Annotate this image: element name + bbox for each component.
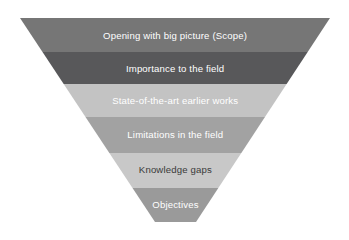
funnel-band-label: Opening with big picture (Scope) — [103, 30, 247, 41]
funnel-band-label: Objectives — [152, 199, 198, 210]
funnel-band-label: State-of-the-art earlier works — [112, 95, 238, 106]
funnel-band-label: Knowledge gaps — [139, 164, 212, 175]
funnel-band-label: Limitations in the field — [127, 129, 223, 140]
funnel-band-label: Importance to the field — [126, 63, 224, 74]
funnel-diagram: Opening with big picture (Scope)Importan… — [0, 0, 349, 240]
